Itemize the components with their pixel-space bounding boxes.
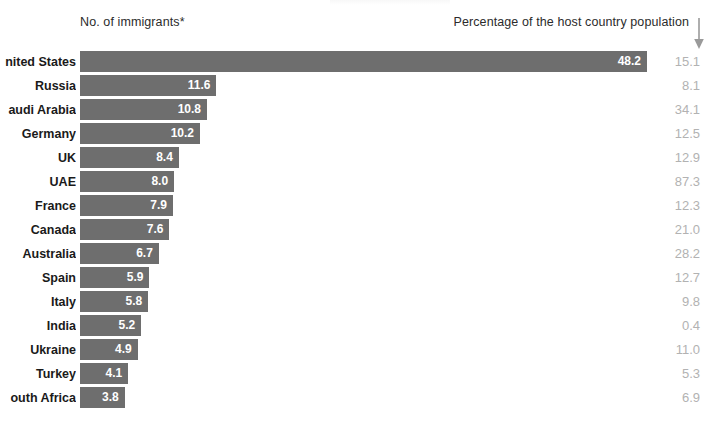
- bar-value-label: 4.9: [115, 339, 132, 360]
- bar-track: 4.9: [80, 339, 650, 361]
- chart-row: UK8.412.9: [0, 147, 711, 171]
- bar-value-label: 48.2: [618, 51, 641, 72]
- immigrants-bar: 11.6: [80, 75, 216, 96]
- bar-track: 5.2: [80, 315, 650, 337]
- bar-track: 10.2: [80, 123, 650, 145]
- percentage-column-header: Percentage of the host country populatio…: [453, 15, 689, 29]
- bar-track: 7.6: [80, 219, 650, 241]
- percentage-value: 12.9: [640, 147, 700, 169]
- chart-row: Spain5.912.7: [0, 267, 711, 291]
- immigrants-bar: 5.2: [80, 315, 141, 336]
- bar-track: 7.9: [80, 195, 650, 217]
- immigrants-bar: 8.0: [80, 171, 174, 192]
- percentage-value: 21.0: [640, 219, 700, 241]
- immigrants-column-header: No. of immigrants*: [80, 15, 185, 29]
- bar-track: 4.1: [80, 363, 650, 385]
- immigrants-bar: 5.8: [80, 291, 148, 312]
- chart-row: Canada7.621.0: [0, 219, 711, 243]
- country-label: nited States: [0, 51, 76, 73]
- chart-row: nited States48.215.1: [0, 51, 711, 75]
- bar-value-label: 6.7: [136, 243, 153, 264]
- chart-row: Italy5.89.8: [0, 291, 711, 315]
- country-label: Canada: [0, 219, 76, 241]
- chart-rows: nited States48.215.1Russia11.68.1audi Ar…: [0, 51, 711, 411]
- immigrants-bar: 4.9: [80, 339, 138, 360]
- country-label: Spain: [0, 267, 76, 289]
- country-label: Ukraine: [0, 339, 76, 361]
- bar-value-label: 5.9: [127, 267, 144, 288]
- immigrants-bar: 4.1: [80, 363, 128, 384]
- bar-value-label: 7.6: [147, 219, 164, 240]
- bar-value-label: 8.4: [156, 147, 173, 168]
- immigrants-bar: 6.7: [80, 243, 159, 264]
- country-label: India: [0, 315, 76, 337]
- chart-row: France7.912.3: [0, 195, 711, 219]
- immigrants-bar: 8.4: [80, 147, 179, 168]
- bar-value-label: 10.8: [178, 99, 201, 120]
- bar-track: 48.2: [80, 51, 650, 73]
- bar-track: 5.8: [80, 291, 650, 313]
- bar-track: 8.0: [80, 171, 650, 193]
- bar-value-label: 5.2: [118, 315, 135, 336]
- arrow-down-icon: [692, 17, 706, 51]
- bar-value-label: 7.9: [150, 195, 167, 216]
- country-label: UK: [0, 147, 76, 169]
- immigrants-bar: 5.9: [80, 267, 149, 288]
- immigrants-bar: 7.9: [80, 195, 173, 216]
- bar-track: 10.8: [80, 99, 650, 121]
- chart-row: Australia6.728.2: [0, 243, 711, 267]
- percentage-value: 34.1: [640, 99, 700, 121]
- immigrants-bar: 7.6: [80, 219, 169, 240]
- bar-value-label: 4.1: [106, 363, 123, 384]
- country-label: Italy: [0, 291, 76, 313]
- immigrants-bar: 10.2: [80, 123, 200, 144]
- immigrants-bar-chart: No. of immigrants* Percentage of the hos…: [0, 0, 711, 429]
- percentage-value: 12.3: [640, 195, 700, 217]
- bar-track: 5.9: [80, 267, 650, 289]
- chart-row: audi Arabia10.834.1: [0, 99, 711, 123]
- country-label: UAE: [0, 171, 76, 193]
- percentage-value: 9.8: [640, 291, 700, 313]
- country-label: Germany: [0, 123, 76, 145]
- percentage-value: 0.4: [640, 315, 700, 337]
- chart-row: Russia11.68.1: [0, 75, 711, 99]
- country-label: France: [0, 195, 76, 217]
- bar-track: 8.4: [80, 147, 650, 169]
- percentage-value: 12.7: [640, 267, 700, 289]
- chart-row: outh Africa3.86.9: [0, 387, 711, 411]
- percentage-value: 6.9: [640, 387, 700, 409]
- bar-value-label: 3.8: [102, 387, 119, 408]
- bar-value-label: 10.2: [171, 123, 194, 144]
- percentage-value: 5.3: [640, 363, 700, 385]
- bar-track: 6.7: [80, 243, 650, 265]
- country-label: Australia: [0, 243, 76, 265]
- bar-value-label: 11.6: [188, 75, 211, 96]
- percentage-value: 11.0: [640, 339, 700, 361]
- chart-row: UAE8.087.3: [0, 171, 711, 195]
- country-label: Russia: [0, 75, 76, 97]
- percentage-value: 28.2: [640, 243, 700, 265]
- bar-track: 11.6: [80, 75, 650, 97]
- country-label: audi Arabia: [0, 99, 76, 121]
- immigrants-bar: 3.8: [80, 387, 125, 408]
- chart-row: Ukraine4.911.0: [0, 339, 711, 363]
- immigrants-bar: 10.8: [80, 99, 207, 120]
- percentage-value: 87.3: [640, 171, 700, 193]
- chart-row: Germany10.212.5: [0, 123, 711, 147]
- bar-track: 3.8: [80, 387, 650, 409]
- country-label: Turkey: [0, 363, 76, 385]
- bar-value-label: 5.8: [126, 291, 143, 312]
- chart-header: No. of immigrants* Percentage of the hos…: [0, 15, 711, 41]
- bar-value-label: 8.0: [151, 171, 168, 192]
- percentage-value: 12.5: [640, 123, 700, 145]
- percentage-value: 15.1: [640, 51, 700, 73]
- immigrants-bar: 48.2: [80, 51, 647, 72]
- country-label: outh Africa: [0, 387, 76, 409]
- chart-row: Turkey4.15.3: [0, 363, 711, 387]
- chart-row: India5.20.4: [0, 315, 711, 339]
- percentage-value: 8.1: [640, 75, 700, 97]
